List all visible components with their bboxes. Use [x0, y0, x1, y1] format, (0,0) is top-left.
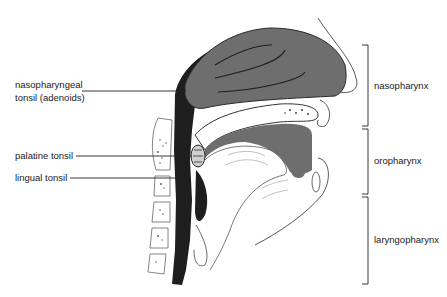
label-line-1: nasopharyngeal: [15, 79, 85, 91]
leader-lines: [70, 91, 192, 178]
upper-lip-outline: [317, 100, 329, 127]
lower-teeth: [312, 172, 320, 192]
palatine-tonsil-shape: [191, 145, 205, 167]
vertebrae: [148, 118, 172, 274]
bone-texture: [155, 139, 167, 263]
label-oropharynx: oropharynx: [374, 155, 422, 167]
label-line-2: tonsil (adenoids): [15, 92, 85, 104]
label-laryngopharynx: laryngopharynx: [374, 234, 439, 246]
label-nasopharyngeal-tonsil: nasopharyngeal tonsil (adenoids): [15, 79, 85, 104]
nasal-cavity: [185, 28, 346, 108]
pharynx-sagittal-illustration: [0, 0, 447, 297]
larynx-outline: [194, 225, 207, 266]
label-palatine-tonsil: palatine tonsil: [15, 150, 73, 162]
region-brackets: [362, 45, 368, 284]
label-nasopharynx: nasopharynx: [374, 80, 428, 92]
epiglottis: [195, 170, 207, 221]
label-lingual-tonsil: lingual tonsil: [15, 172, 67, 184]
tongue: [205, 146, 286, 270]
